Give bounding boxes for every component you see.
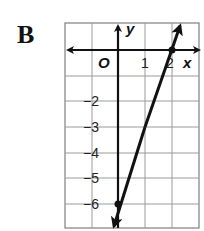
y-tick-labels: −2 −3 −4 −5 −6 bbox=[83, 93, 99, 212]
y-axis-label: y bbox=[125, 20, 135, 37]
y-tick--6: −6 bbox=[83, 196, 99, 212]
y-tick--4: −4 bbox=[83, 145, 99, 161]
y-tick--3: −3 bbox=[83, 119, 99, 135]
x-axis-label: x bbox=[182, 54, 192, 71]
x-tick-1: 1 bbox=[141, 55, 149, 71]
coordinate-graph: y x O 1 2 −2 −3 −4 −5 −6 bbox=[0, 0, 204, 231]
y-tick--2: −2 bbox=[83, 93, 99, 109]
y-tick--5: −5 bbox=[83, 170, 99, 186]
point-x-intercept bbox=[169, 47, 176, 54]
origin-label: O bbox=[98, 54, 110, 71]
point-y-intercept bbox=[115, 201, 122, 208]
